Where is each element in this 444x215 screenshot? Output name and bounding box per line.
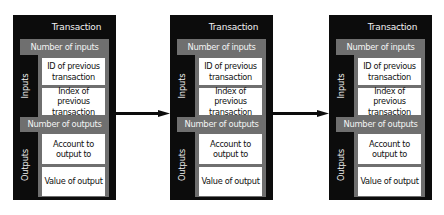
- inputs-side-label: Inputs: [13, 55, 38, 117]
- previous-tx-id-field: ID of previous transaction: [199, 58, 262, 85]
- inputs-label-text: Inputs: [336, 74, 346, 99]
- inputs-side-label: Inputs: [329, 55, 354, 117]
- arrow-right-icon: [116, 110, 170, 117]
- number-of-inputs-bar: Number of inputs: [336, 39, 425, 55]
- transaction-title: Transaction: [37, 20, 116, 34]
- outputs-side-label: Outputs: [13, 132, 38, 197]
- number-of-inputs-bar: Number of inputs: [177, 39, 266, 55]
- previous-tx-index-field: Index of previous transaction: [42, 88, 105, 115]
- previous-tx-id-field: ID of previous transaction: [42, 58, 105, 85]
- inputs-side-label: Inputs: [170, 55, 195, 117]
- previous-tx-index-field: Index of previous transaction: [358, 88, 421, 115]
- output-account-field: Account to output to: [358, 134, 421, 164]
- previous-tx-index-field: Index of previous transaction: [199, 88, 262, 115]
- number-of-inputs-bar: Number of inputs: [20, 39, 109, 55]
- outputs-label-text: Outputs: [178, 148, 188, 180]
- arrow-right-icon: [273, 110, 329, 117]
- output-value-field: Value of output: [42, 167, 105, 196]
- number-of-outputs-bar: Number of outputs: [177, 117, 266, 132]
- transaction-block-1: Transaction Number of inputs Inputs ID o…: [13, 15, 116, 200]
- transaction-block-3: Transaction Number of inputs Inputs ID o…: [329, 15, 432, 200]
- outputs-side-label: Outputs: [329, 132, 354, 197]
- transaction-title: Transaction: [353, 20, 432, 34]
- output-account-field: Account to output to: [199, 134, 262, 164]
- outputs-label-text: Outputs: [337, 148, 347, 180]
- inputs-label-text: Inputs: [177, 74, 187, 99]
- number-of-outputs-bar: Number of outputs: [336, 117, 425, 132]
- output-value-field: Value of output: [199, 167, 262, 196]
- output-account-field: Account to output to: [42, 134, 105, 164]
- outputs-side-label: Outputs: [170, 132, 195, 197]
- transaction-title: Transaction: [194, 20, 273, 34]
- output-value-field: Value of output: [358, 167, 421, 196]
- outputs-label-text: Outputs: [21, 148, 31, 180]
- number-of-outputs-bar: Number of outputs: [20, 117, 109, 132]
- inputs-label-text: Inputs: [20, 74, 30, 99]
- transaction-block-2: Transaction Number of inputs Inputs ID o…: [170, 15, 273, 200]
- previous-tx-id-field: ID of previous transaction: [358, 58, 421, 85]
